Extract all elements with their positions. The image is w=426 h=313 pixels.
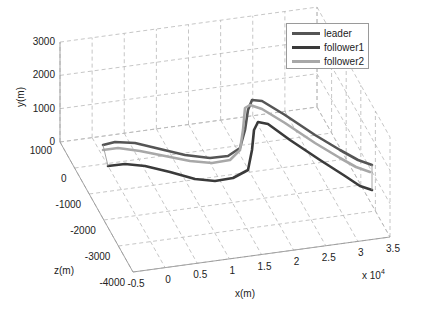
legend: leader follower1 follower2 xyxy=(286,23,369,69)
legend-item-follower2: follower2 xyxy=(292,54,364,68)
z-tick-label: -2000 xyxy=(70,225,96,236)
x-tick-label: 0 xyxy=(165,274,171,285)
z-axis-label: z(m) xyxy=(54,265,74,276)
x-tick-label: 1.5 xyxy=(258,261,272,272)
z-tick-label: 0 xyxy=(61,173,67,184)
x-tick-label: 1 xyxy=(230,265,236,276)
legend-swatch-follower1 xyxy=(292,46,320,49)
x-tick-label: 3.5 xyxy=(386,243,400,254)
legend-label: follower2 xyxy=(324,56,364,67)
x-tick-label: 3 xyxy=(358,247,364,258)
z-tick-label: -1000 xyxy=(56,199,82,210)
z-tick-label: -3000 xyxy=(85,251,111,262)
series-line-follower1 xyxy=(108,122,372,190)
legend-swatch-follower2 xyxy=(292,60,320,63)
x-tick-label: 0.5 xyxy=(193,269,207,280)
y-tick-label: 2000 xyxy=(33,69,56,80)
z-tick-label: 1000 xyxy=(30,145,53,156)
legend-swatch-leader xyxy=(292,32,320,35)
x-multiplier-label: x 104 xyxy=(362,268,385,281)
y-axis-label: y(m) xyxy=(15,87,26,107)
y-tick-label: 3000 xyxy=(33,36,56,47)
x-tick-label: 2.5 xyxy=(322,252,336,263)
series-line-follower2 xyxy=(103,105,370,172)
legend-label: follower1 xyxy=(324,42,364,53)
legend-item-leader: leader xyxy=(292,26,352,40)
z-tick-label: -4000 xyxy=(99,277,125,288)
x-axis-label: x(m) xyxy=(235,288,255,299)
legend-item-follower1: follower1 xyxy=(292,40,364,54)
legend-label: leader xyxy=(324,28,352,39)
x-tick-label: 2 xyxy=(294,256,300,267)
x-tick-label: -0.5 xyxy=(127,278,145,289)
y-tick-label: 1000 xyxy=(33,103,56,114)
data-series xyxy=(103,100,372,190)
